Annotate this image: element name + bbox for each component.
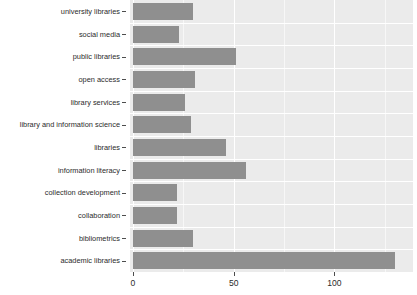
y-axis-tick [122,215,126,216]
gridline-horizontal [130,91,413,92]
bar [133,3,193,20]
x-axis-tick-label: 100 [327,278,341,288]
gridline-horizontal [130,159,413,160]
gridline-horizontal [130,227,413,228]
bar [133,116,191,133]
x-axis-tick [334,272,335,276]
bar [133,48,236,65]
y-axis-tick-label: public libraries [0,52,120,61]
y-axis-tick [122,238,126,239]
y-axis-tick-label: libraries [0,143,120,152]
y-axis-tick-label: collection development [0,188,120,197]
gridline-horizontal [130,113,413,114]
gridline-horizontal [130,68,413,69]
y-axis-tick [122,57,126,58]
y-axis-tick [122,147,126,148]
y-axis: university librariessocial mediapublic l… [0,0,130,272]
bar [133,94,185,111]
y-axis-tick-label: academic libraries [0,256,120,265]
y-axis-tick [122,125,126,126]
bar [133,26,179,43]
y-axis-tick [122,261,126,262]
gridline-horizontal [130,136,413,137]
bar [133,207,177,224]
bar-chart: university librariessocial mediapublic l… [0,0,417,295]
x-axis-tick [234,272,235,276]
y-axis-tick-label: open access [0,75,120,84]
gridline-horizontal [130,181,413,182]
y-axis-tick-label: library services [0,98,120,107]
y-axis-tick [122,170,126,171]
x-axis-tick-label: 0 [131,278,136,288]
y-axis-tick-label: information literacy [0,166,120,175]
gridline-horizontal [130,204,413,205]
y-axis-tick [122,34,126,35]
bar [133,162,246,179]
bar [133,71,195,88]
y-axis-tick [122,79,126,80]
bar [133,184,177,201]
bar [133,252,395,269]
y-axis-tick-label: university libraries [0,7,120,16]
plot-panel [130,0,413,272]
y-axis-tick-label: social media [0,30,120,39]
y-axis-tick [122,193,126,194]
y-axis-tick [122,11,126,12]
bar [133,230,193,247]
y-axis-tick-label: collaboration [0,211,120,220]
y-axis-tick-label: bibliometrics [0,234,120,243]
y-axis-tick-label: library and information science [0,120,120,129]
x-axis-tick-label: 50 [229,278,239,288]
gridline-horizontal [130,45,413,46]
gridline-horizontal [130,249,413,250]
y-axis-tick [122,102,126,103]
gridline-horizontal [130,23,413,24]
bar [133,139,226,156]
x-axis-tick [133,272,134,276]
